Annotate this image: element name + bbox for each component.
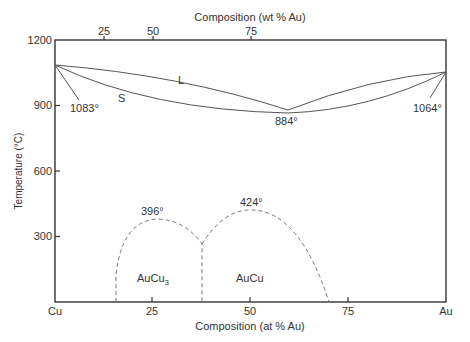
phase-diagram-chart: Composition (wt % Au) 25 50 75 1200 900 … (0, 0, 470, 342)
plot-frame (55, 40, 446, 302)
top-tick-label: 50 (147, 25, 159, 37)
top-tick-label: 75 (245, 25, 257, 37)
y-tick-label: 300 (34, 230, 52, 242)
au-melting-label: 1064° (413, 102, 442, 114)
y-tick-label: 900 (34, 99, 52, 111)
aucu3-peak-label: 396° (141, 205, 164, 217)
aucu-peak-label: 424° (240, 196, 263, 208)
x-tick-label: Cu (48, 305, 62, 317)
x-tick-label: 25 (146, 305, 158, 317)
solid-label: S (118, 92, 125, 104)
aucu-boundary (202, 210, 329, 302)
y-tick-label: 1200 (28, 34, 52, 46)
aucu-phase-label: AuCu (236, 272, 264, 284)
x-tick-label: 50 (244, 305, 256, 317)
x-tick-label: 75 (342, 305, 354, 317)
top-tick-label: 25 (98, 25, 110, 37)
top-axis-title: Composition (wt % Au) (194, 11, 305, 23)
minimum-label: 884° (275, 115, 298, 127)
liquid-label: L (178, 74, 184, 86)
aucu3-boundary (116, 219, 202, 302)
y-axis-title: Temperature (°C) (13, 133, 24, 210)
solidus-curve (55, 65, 446, 113)
aucu3-phase-label: AuCu3 (137, 272, 170, 287)
x-tick-label: Au (439, 305, 452, 317)
bottom-axis-title: Composition (at % Au) (195, 320, 304, 332)
y-tick-label: 600 (34, 165, 52, 177)
cu-melting-label: 1083° (70, 102, 99, 114)
